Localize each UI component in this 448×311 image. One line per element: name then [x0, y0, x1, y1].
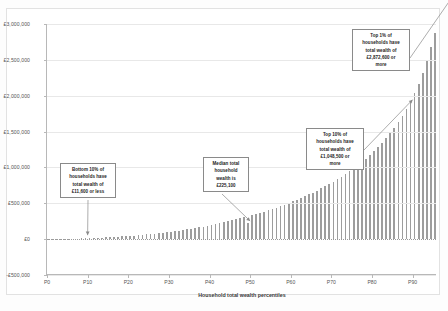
callout-line: total wealth of	[309, 146, 361, 153]
bar	[276, 208, 278, 240]
bar	[349, 171, 351, 239]
bar	[239, 218, 241, 239]
bar	[345, 174, 347, 239]
bar	[223, 222, 225, 239]
bar	[361, 164, 363, 239]
y-axis-tick-label: £1,500,000	[4, 129, 31, 135]
bar	[268, 210, 270, 239]
bar	[247, 223, 249, 239]
bar	[215, 224, 217, 239]
callout-line: total wealth of	[63, 181, 113, 188]
x-axis-tick-label: P80	[367, 279, 376, 285]
y-axis-tick-label: £2,500,000	[4, 57, 31, 63]
bar	[263, 212, 265, 240]
bar	[259, 213, 261, 239]
bar	[296, 200, 298, 239]
bar	[320, 188, 322, 239]
bar	[194, 228, 196, 239]
bar	[243, 217, 245, 239]
gridline	[47, 96, 436, 97]
x-axis-tick-mark	[210, 275, 211, 278]
callout-line: Top 10% of	[309, 131, 361, 138]
x-axis-tick-mark	[88, 275, 89, 278]
bar	[398, 122, 400, 239]
bar	[365, 159, 367, 240]
x-axis-tick-label: P20	[124, 279, 133, 285]
wealth-percentiles-chart: £3,000,000£2,500,000£2,000,000£1,500,000…	[0, 0, 448, 311]
bar	[373, 151, 375, 239]
bar	[198, 227, 200, 239]
bar	[333, 182, 335, 239]
callout-line: Bottom 10% of	[63, 166, 113, 173]
bar	[292, 201, 294, 239]
x-axis-tick-mark	[128, 275, 129, 278]
callout-line: total wealth of	[355, 47, 407, 54]
bar	[288, 203, 290, 239]
gridline	[47, 24, 436, 25]
bar	[385, 138, 387, 239]
y-axis-tick-mark	[44, 96, 47, 97]
bar	[324, 186, 326, 239]
y-axis-tick-label: £2,000,000	[4, 93, 31, 99]
callout-line: Median total	[206, 160, 246, 167]
callout-line: more	[355, 61, 407, 68]
gridline	[47, 203, 436, 204]
x-axis-tick-label: P50	[246, 279, 255, 285]
callout-top-1-percent: Top 1% ofhouseholds havetotal wealth of£…	[352, 29, 410, 71]
y-axis-tick-label: £500,000	[8, 200, 30, 206]
gridline	[47, 132, 436, 133]
callout-line: £11,600 or less	[63, 188, 113, 195]
bar	[182, 230, 184, 239]
bar	[381, 143, 383, 239]
bar	[272, 209, 274, 239]
bar	[170, 232, 172, 239]
y-axis-tick-mark	[44, 132, 47, 133]
x-axis-tick-label: P70	[327, 279, 336, 285]
callout-line: wealth is	[206, 175, 246, 182]
callout-line: Top 1% of	[355, 32, 407, 39]
bar	[422, 73, 424, 239]
x-axis-tick-mark	[47, 275, 48, 278]
bar	[280, 206, 282, 239]
bar	[418, 84, 420, 239]
callout-bottom-10-percent: Bottom 10% ofhouseholds havetotal wealth…	[60, 163, 116, 198]
bar	[426, 61, 428, 239]
callout-line: £225,100	[206, 182, 246, 189]
x-axis-tick-label: P0	[44, 279, 50, 285]
callout-line: households have	[309, 138, 361, 145]
x-axis-tick-label: P60	[286, 279, 295, 285]
y-axis-tick-mark	[44, 203, 47, 204]
callout-line: more	[309, 160, 361, 167]
gridline	[47, 275, 436, 276]
bar	[227, 221, 229, 239]
bar	[430, 47, 432, 239]
bar	[235, 219, 237, 239]
bar	[341, 177, 343, 239]
callout-top-10-percent: Top 10% ofhouseholds havetotal wealth of…	[306, 128, 364, 170]
y-axis-tick-mark	[44, 167, 47, 168]
bar	[410, 102, 412, 239]
bar	[316, 191, 318, 240]
bar	[414, 93, 416, 239]
x-axis-tick-mark	[331, 275, 332, 278]
x-axis-title: Household total wealth percentiles	[47, 292, 437, 298]
bar	[166, 232, 168, 239]
bar	[402, 116, 404, 239]
callout-line: £1,048,500 or	[309, 153, 361, 160]
x-axis-tick-mark	[291, 275, 292, 278]
callout-line: households have	[355, 39, 407, 46]
x-axis-tick-label: P10	[83, 279, 92, 285]
y-axis-tick-label: £0	[24, 236, 30, 242]
bar	[211, 225, 213, 239]
bar	[393, 128, 395, 239]
callout-line: household	[206, 167, 246, 174]
gridline	[47, 239, 436, 240]
bar	[231, 220, 233, 239]
x-axis-tick-mark	[413, 275, 414, 278]
bar	[328, 184, 330, 239]
x-axis-tick-label: P30	[164, 279, 173, 285]
bar	[174, 231, 176, 239]
bar	[284, 205, 286, 239]
bar	[190, 229, 192, 239]
bar	[337, 179, 339, 239]
